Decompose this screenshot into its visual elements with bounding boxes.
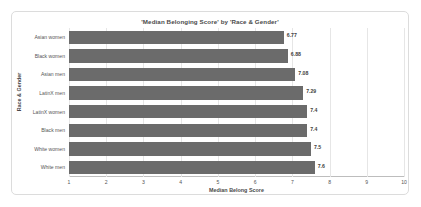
bar-row: 7.4 xyxy=(69,103,404,122)
bar-value-label: 6.88 xyxy=(291,51,301,57)
x-axis-tick-label: 8 xyxy=(328,179,331,185)
bar-value-label: 6.77 xyxy=(287,32,297,38)
y-axis-tick-label: Black men xyxy=(5,127,65,133)
y-axis-tick-label: Asian women xyxy=(5,34,65,40)
bar[interactable] xyxy=(69,124,307,137)
x-axis-tick-label: 1 xyxy=(68,179,71,185)
gridline xyxy=(404,28,405,177)
y-axis-tick-label: White women xyxy=(5,146,65,152)
y-axis-tick-label: LatinX women xyxy=(5,109,65,115)
y-axis-tick-label: White men xyxy=(5,164,65,170)
x-axis-tick-label: 3 xyxy=(142,179,145,185)
chart-card: 'Median Belonging Score' by 'Race & Gend… xyxy=(11,11,409,195)
x-axis-title: Median Belong Score xyxy=(69,187,404,193)
chart-title: 'Median Belonging Score' by 'Race & Gend… xyxy=(12,18,408,25)
bar[interactable] xyxy=(69,49,288,62)
bar-value-label: 7.08 xyxy=(298,70,308,76)
bar-row: 7.5 xyxy=(69,140,404,159)
chart-screenshot: 'Median Belonging Score' by 'Race & Gend… xyxy=(0,0,421,207)
bar[interactable] xyxy=(69,86,303,99)
bar[interactable] xyxy=(69,68,295,81)
x-axis-tick-label: 5 xyxy=(216,179,219,185)
bar[interactable] xyxy=(69,105,307,118)
x-axis-tick-label: 9 xyxy=(365,179,368,185)
bar-value-label: 7.6 xyxy=(318,163,325,169)
y-axis-tick-label: Black women xyxy=(5,53,65,59)
bar-value-label: 7.4 xyxy=(310,126,317,132)
y-axis-tick-label: Asian men xyxy=(5,71,65,77)
y-axis-tick-label: LatinX men xyxy=(5,90,65,96)
bar-row: 7.6 xyxy=(69,158,404,177)
bar-row: 7.08 xyxy=(69,65,404,84)
bar-row: 7.29 xyxy=(69,84,404,103)
x-axis-tick-label: 7 xyxy=(291,179,294,185)
bar[interactable] xyxy=(69,31,284,44)
bar-value-label: 7.4 xyxy=(310,107,317,113)
x-axis-tick-label: 10 xyxy=(401,179,407,185)
bar-value-label: 7.29 xyxy=(306,88,316,94)
x-axis-tick-label: 2 xyxy=(105,179,108,185)
bar-row: 7.4 xyxy=(69,121,404,140)
plot-area: 6.776.887.087.297.47.47.57.6 xyxy=(69,28,404,177)
x-axis-tick-label: 4 xyxy=(179,179,182,185)
bar-value-label: 7.5 xyxy=(314,144,321,150)
bar-row: 6.77 xyxy=(69,28,404,47)
bar-row: 6.88 xyxy=(69,47,404,66)
x-axis-tick-label: 6 xyxy=(254,179,257,185)
bar[interactable] xyxy=(69,142,311,155)
bar[interactable] xyxy=(69,161,315,174)
